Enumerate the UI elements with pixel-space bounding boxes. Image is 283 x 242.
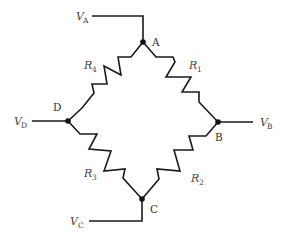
wheatstone-bridge-diagram: A D B C V A V D V B V C R 4 R 1 R 3 R 2 — [0, 0, 283, 242]
wire-va-lead — [92, 16, 143, 42]
resistor-r1 — [143, 42, 218, 122]
wire-vc-lead — [89, 199, 142, 221]
voltage-label-vb: V B — [260, 116, 273, 131]
resistor-r3 — [68, 121, 142, 199]
r4-sub: 4 — [92, 65, 97, 74]
r2-sub: 2 — [199, 178, 204, 187]
r3-sub: 3 — [92, 173, 97, 182]
voltage-label-va: V A — [76, 10, 89, 25]
voltage-vd-sub: D — [21, 121, 27, 130]
r1-sub: 1 — [197, 65, 202, 74]
r3-symbol: R — [83, 167, 92, 180]
resistor-label-r3: R 3 — [83, 167, 97, 182]
resistor-r4 — [68, 42, 143, 121]
node-c-label: C — [150, 203, 158, 215]
node-d-dot — [65, 118, 71, 124]
node-a-dot — [140, 39, 146, 45]
resistor-r2 — [142, 122, 218, 199]
resistor-label-r2: R 2 — [190, 172, 204, 187]
resistor-label-r1: R 1 — [188, 59, 202, 74]
node-b-label: B — [215, 131, 223, 143]
node-a-label: A — [151, 36, 160, 48]
r2-symbol: R — [190, 172, 199, 185]
resistor-label-r4: R 4 — [83, 59, 97, 74]
voltage-vb-sub: B — [267, 122, 273, 131]
voltage-label-vd: V D — [14, 115, 27, 130]
node-b-dot — [215, 119, 221, 125]
node-d-label: D — [53, 101, 61, 113]
node-c-dot — [139, 196, 145, 202]
voltage-label-vc: V C — [70, 215, 84, 230]
r1-symbol: R — [188, 59, 197, 72]
voltage-vc-sub: C — [78, 221, 84, 230]
r4-symbol: R — [83, 59, 92, 72]
voltage-va-sub: A — [82, 16, 89, 25]
